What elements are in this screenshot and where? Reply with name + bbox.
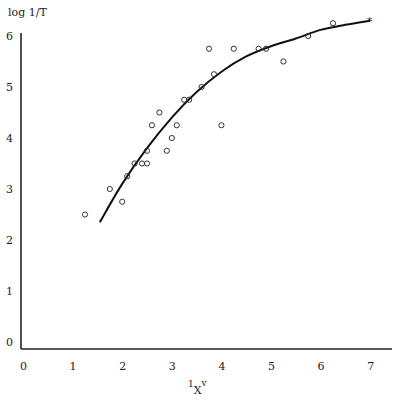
y-tick-label: 5 (6, 81, 13, 94)
data-point (139, 161, 144, 166)
y-axis-label: log 1/T (8, 6, 47, 19)
star-icon: * (367, 15, 373, 28)
x-tick-label: 4 (218, 360, 225, 373)
data-point (219, 123, 224, 128)
y-tick-label: 2 (6, 234, 13, 247)
data-point (120, 199, 125, 204)
x-tick-label: 2 (119, 360, 126, 373)
data-point (144, 161, 149, 166)
data-point (174, 123, 179, 128)
y-tick-label: 0 (6, 336, 13, 349)
y-tick-label: 4 (6, 132, 13, 145)
chart: log 1/T 0123456 01234567 * 1Xv (0, 0, 395, 406)
data-point (149, 123, 154, 128)
data-point (182, 97, 187, 102)
x-tick-label: 5 (268, 360, 275, 373)
y-tick-label: 3 (6, 183, 13, 196)
data-point (231, 46, 236, 51)
x-tick-label: 0 (20, 360, 27, 373)
data-point (330, 21, 335, 26)
x-tick-label: 3 (169, 360, 176, 373)
y-tick-label: 1 (6, 285, 13, 298)
x-tick-label: 7 (367, 360, 374, 373)
x-axis-label: 1Xv (188, 378, 208, 397)
x-axis-ticks: 01234567 (20, 360, 374, 373)
y-tick-label: 6 (6, 30, 13, 43)
y-axis-ticks: 0123456 (6, 30, 13, 349)
x-tick-label: 6 (318, 360, 325, 373)
data-point (164, 148, 169, 153)
data-point (206, 46, 211, 51)
data-point (157, 110, 162, 115)
data-point (107, 186, 112, 191)
x-tick-label: 1 (70, 360, 77, 373)
data-point (169, 135, 174, 140)
data-point (281, 59, 286, 64)
reference-star: * (367, 15, 373, 28)
data-point (82, 212, 87, 217)
